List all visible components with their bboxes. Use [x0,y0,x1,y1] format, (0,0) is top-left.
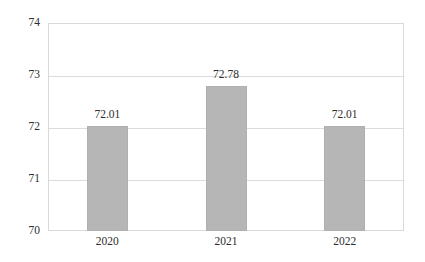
bar-value-label-2022: 72.01 [332,109,358,121]
y-axis-tick-label: 72 [8,121,40,133]
bar-2020[interactable] [87,126,128,231]
bar-chart: 7071727374 72.01202072.78202172.012022 [0,0,425,262]
y-axis-tick-label: 73 [8,69,40,81]
x-axis-category-label-2021: 2021 [215,236,238,248]
y-axis-tick-label: 71 [8,173,40,185]
x-axis-category-label-2020: 2020 [96,236,119,248]
bar-2022[interactable] [324,126,365,231]
bar-value-label-2021: 72.78 [213,69,239,81]
x-axis-category-label-2022: 2022 [333,236,356,248]
y-axis-tick-label: 74 [8,17,40,29]
bar-value-label-2020: 72.01 [94,109,120,121]
y-axis-tick-label: 70 [8,225,40,237]
bar-2021[interactable] [206,86,247,231]
